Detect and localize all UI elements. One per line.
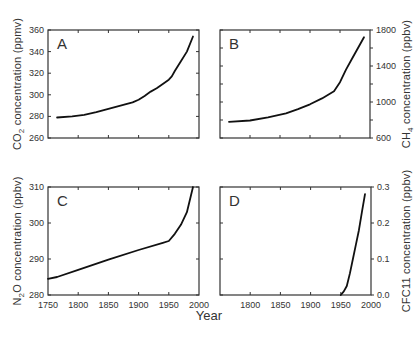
y-axis-label: N2O concentration (ppbv) <box>11 176 26 305</box>
panel-letter: B <box>229 35 239 52</box>
axes-frame <box>48 187 199 295</box>
y-tick-label: 300 <box>29 90 44 100</box>
panel-letter: A <box>57 35 67 52</box>
panel-d: 180018501900195020000.00.10.20.3DCFC11 c… <box>220 170 412 313</box>
x-tick-label: 1900 <box>129 300 149 310</box>
y-tick-label: 290 <box>29 254 44 264</box>
x-tick-label: 1950 <box>159 300 179 310</box>
y-axis-label: CH4 concentration (ppbv) <box>400 20 415 149</box>
y-tick-label: 340 <box>29 47 44 57</box>
y-tick-label: 600 <box>376 133 391 143</box>
y-tick-label: 0.0 <box>377 290 390 300</box>
y-tick-label: 360 <box>29 25 44 35</box>
y-tick-label: 0.2 <box>377 218 390 228</box>
x-tick-label: 1850 <box>98 300 118 310</box>
panel-c: 175018001850190019502000280290300310CN2O… <box>11 176 209 310</box>
x-tick-label: 1750 <box>38 300 58 310</box>
y-tick-label: 1400 <box>376 61 396 71</box>
y-tick-label: 0.3 <box>377 182 390 192</box>
y-tick-label: 280 <box>29 290 44 300</box>
axes-frame <box>48 30 199 138</box>
panel-letter: C <box>57 192 68 209</box>
y-tick-label: 300 <box>29 218 44 228</box>
y-axis-label: CFC11 concentration (ppbv) <box>400 170 412 313</box>
y-tick-label: 320 <box>29 68 44 78</box>
data-line-cfc11 <box>341 194 365 295</box>
x-tick-label: 2000 <box>361 300 381 310</box>
x-tick-label: 1950 <box>331 300 351 310</box>
y-axis-label: CO2 concentration (ppmv) <box>11 18 26 150</box>
y-tick-label: 1000 <box>376 97 396 107</box>
y-tick-label: 0.1 <box>377 254 390 264</box>
x-tick-label: 1800 <box>240 300 260 310</box>
x-tick-label: 1800 <box>68 300 88 310</box>
x-axis-label: Year <box>196 308 223 323</box>
data-line-n2o <box>48 187 193 279</box>
y-tick-label: 310 <box>29 182 44 192</box>
data-line-co2 <box>57 37 193 118</box>
y-tick-label: 1800 <box>376 25 396 35</box>
x-tick-label: 1900 <box>301 300 321 310</box>
figure-canvas: 260280300320340360ACO2 concentration (pp… <box>0 0 418 338</box>
panel-a: 260280300320340360ACO2 concentration (pp… <box>11 18 199 150</box>
y-tick-label: 280 <box>29 111 44 121</box>
data-line-ch4 <box>229 37 364 122</box>
x-tick-label: 1850 <box>270 300 290 310</box>
panel-b: 600100014001800BCH4 concentration (ppbv) <box>220 20 415 149</box>
y-tick-label: 260 <box>29 133 44 143</box>
panel-letter: D <box>229 192 240 209</box>
